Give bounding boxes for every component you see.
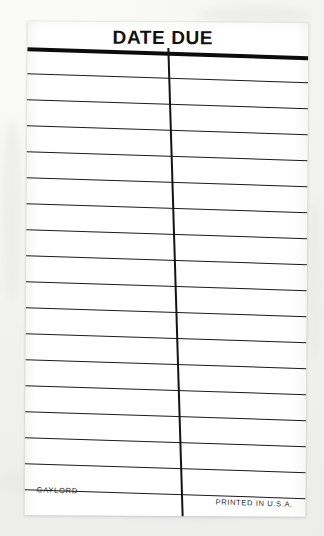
- rule-line: [26, 229, 307, 239]
- rule-line: [26, 255, 307, 265]
- rule-line: [27, 151, 308, 161]
- ruled-lines: [24, 21, 308, 517]
- date-due-card: DATE DUE GAYLORD PRINTED IN U.S.A.: [24, 21, 308, 517]
- rule-line: [25, 437, 306, 447]
- scan-background: DATE DUE GAYLORD PRINTED IN U.S.A.: [0, 0, 324, 536]
- rule-line: [27, 125, 308, 135]
- background-smudge: [200, 6, 310, 24]
- rule-line: [26, 203, 307, 213]
- rule-line: [26, 333, 307, 343]
- background-smudge: [306, 200, 322, 360]
- page-title: DATE DUE: [27, 26, 308, 50]
- rule-line: [25, 385, 306, 395]
- rule-line: [25, 359, 306, 369]
- publisher-mark: GAYLORD: [37, 485, 79, 495]
- rule-line: [27, 99, 308, 109]
- rule-line: [26, 307, 307, 317]
- rule-line: [25, 411, 306, 421]
- rule-line: [25, 463, 306, 473]
- rule-line: [26, 281, 307, 291]
- background-smudge: [2, 120, 22, 300]
- rule-line: [27, 177, 308, 187]
